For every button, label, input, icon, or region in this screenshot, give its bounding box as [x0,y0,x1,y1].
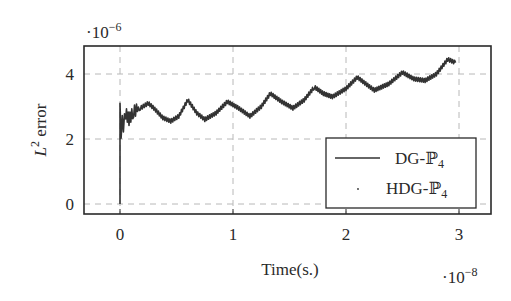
legend-hdg-dot-icon [357,188,359,190]
x-tick-label: 0 [116,225,125,244]
y-tick-label: 2 [66,130,75,149]
legend-entry-hdg: HDG-ℙ4 [386,179,447,201]
legend-entry-dg: DG-ℙ4 [395,149,444,171]
y-axis-label: L2 error [28,103,50,157]
y-tick-label: 0 [66,195,75,214]
x-tick-label: 2 [342,225,351,244]
chart-canvas: 0123024 ·10−6 L2 error Time(s.) ·10−8 DG… [0,0,511,301]
x-tick-label: 1 [229,225,238,244]
y-tick-label: 4 [66,65,75,84]
x-tick-label: 3 [455,225,464,244]
y-axis-multiplier: ·10−6 [86,20,121,42]
legend: DG-ℙ4 HDG-ℙ4 [326,138,476,208]
x-axis-multiplier: ·10−8 [442,265,477,287]
x-axis-label: Time(s.) [261,260,318,279]
